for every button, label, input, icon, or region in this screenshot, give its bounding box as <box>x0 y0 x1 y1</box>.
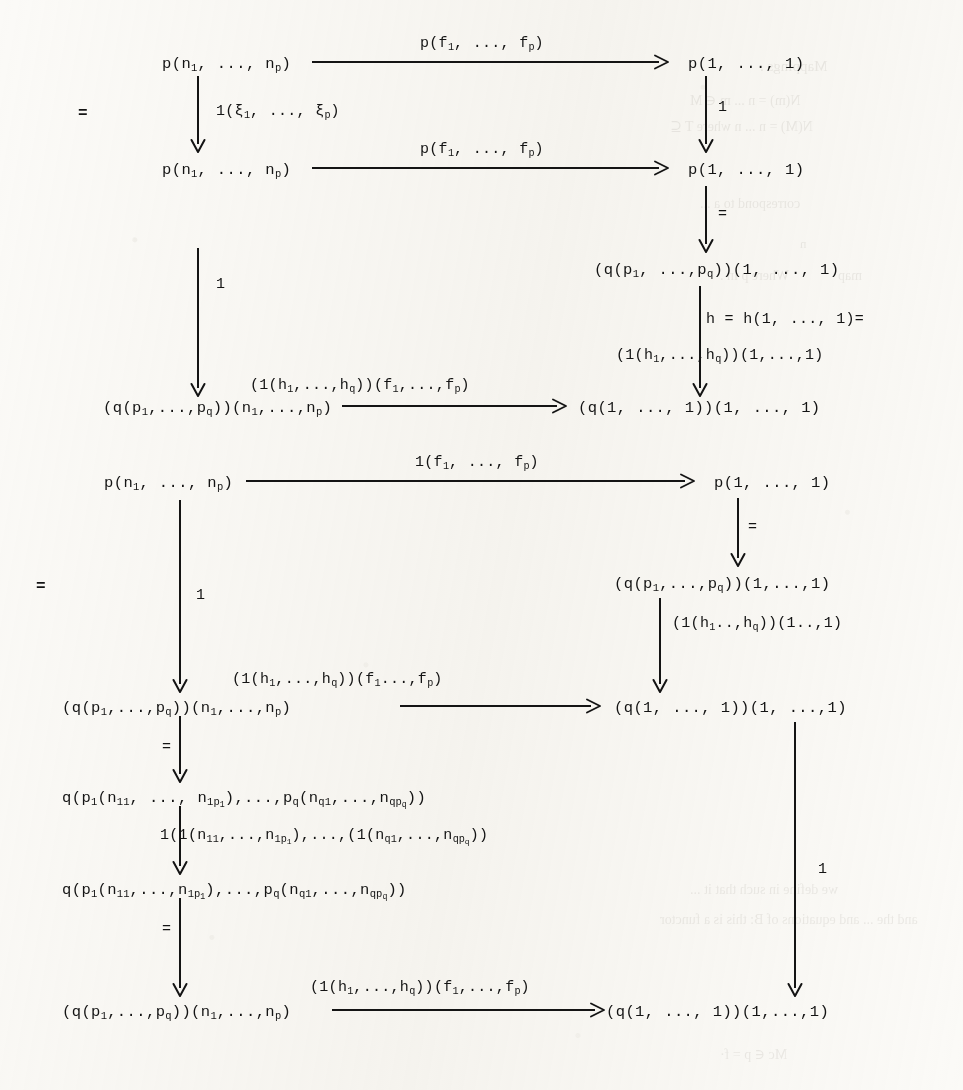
l-left-one: 1 <box>196 588 205 604</box>
u-tl: p(n1, ..., np) <box>162 56 291 72</box>
u-top-arrow-label: p(f1, ..., fp) <box>420 36 544 52</box>
l-eq-a: = <box>162 740 171 756</box>
commutative-diagram: p(n1, ..., np)p(1, ..., 1)p(n1, ..., np)… <box>0 0 963 1090</box>
l-n2: q(p1(n11,...,n1p1),...,pq(nq1,...,nqpq)) <box>62 882 407 898</box>
u-eq-right-1: = <box>718 207 727 223</box>
u-h-label-a: h = h(1, ..., 1)= <box>706 312 864 328</box>
u-mr: p(1, ..., 1) <box>688 162 804 178</box>
u-xi-label: 1(ξ1, ..., ξp) <box>216 104 340 120</box>
eq-left-lower: = <box>36 578 46 596</box>
u-bot-arrow-label: (1(h1,...,hq))(f1,...,fp) <box>250 378 470 394</box>
u-qr: (q(p1, ...,pq))(1, ..., 1) <box>594 262 840 278</box>
u-h-label-b: (1(h1,...,hq))(1,...,1) <box>616 348 824 364</box>
l-mid-arrow-label: (1(h1,...,hq))(f1...,fp) <box>232 672 443 688</box>
u-left-one: 1 <box>216 277 225 293</box>
l-h1-label: (1(h1..,hq))(1..,1) <box>672 616 842 632</box>
l-1n-label: 1(1(n11,...,n1p1),...,(1(nq1,...,nqpq)) <box>160 828 488 844</box>
u-tr: p(1, ..., 1) <box>688 56 804 72</box>
u-mid-arrow-label: p(f1, ..., fp) <box>420 142 544 158</box>
l-eq-b: = <box>162 922 171 938</box>
l-bot-arrow-label: (1(h1,...,hq))(f1,...,fp) <box>310 980 530 996</box>
u-bl: (q(p1,...,pq))(n1,...,np) <box>103 400 332 416</box>
u-right-one: 1 <box>718 100 727 116</box>
u-ml: p(n1, ..., np) <box>162 162 291 178</box>
l-tr: p(1, ..., 1) <box>714 475 830 491</box>
eq-left-upper: = <box>78 105 88 123</box>
u-br: (q(1, ..., 1))(1, ..., 1) <box>578 400 821 416</box>
l-right-one: 1 <box>818 862 827 878</box>
l-mr: (q(1, ..., 1))(1, ...,1) <box>614 700 847 716</box>
l-tl: p(n1, ..., np) <box>104 475 233 491</box>
l-top-arrow-label: 1(f1, ..., fp) <box>415 455 539 471</box>
l-qr: (q(p1,...,pq))(1,...,1) <box>614 576 830 592</box>
l-bl: (q(p1,...,pq))(n1,...,np) <box>62 1004 291 1020</box>
l-eq-right-1: = <box>748 520 757 536</box>
l-br: (q(1, ..., 1))(1,...,1) <box>606 1004 829 1020</box>
l-n1: q(p1(n11, ..., n1p1),...,pq(nq1,...,nqpq… <box>62 790 426 806</box>
l-ml: (q(p1,...,pq))(n1,...,np) <box>62 700 291 716</box>
